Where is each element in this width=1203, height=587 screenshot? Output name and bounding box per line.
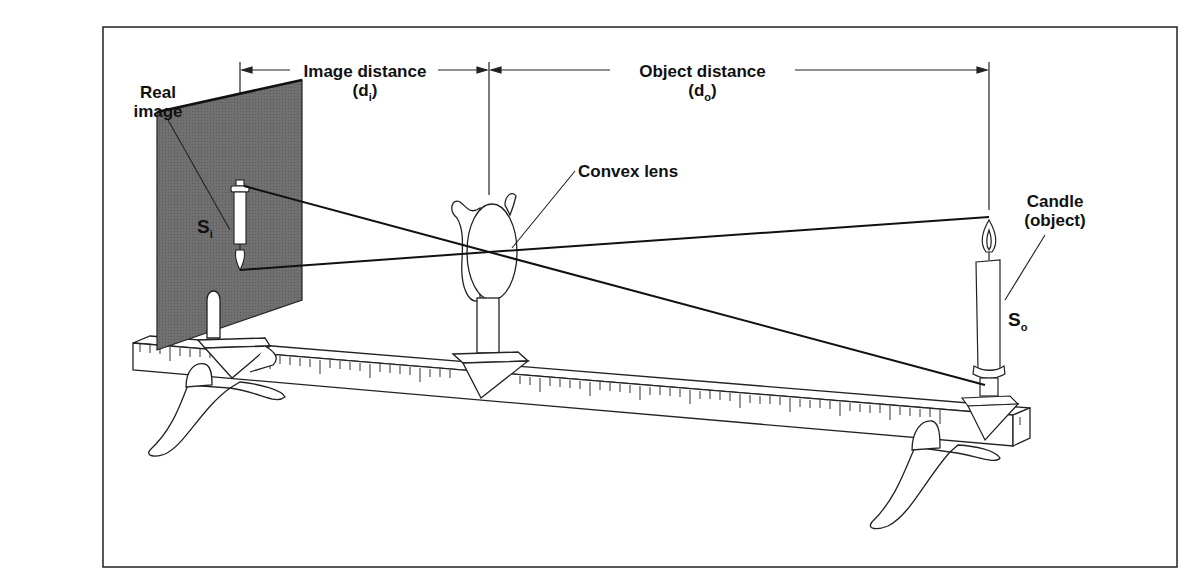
- label-candle-line2: (object): [1015, 211, 1095, 230]
- label-image-size: Si: [197, 217, 213, 239]
- label-image-distance-symbol: (di): [285, 81, 445, 102]
- label-object-distance: Object distance (do): [610, 62, 795, 102]
- label-object-distance-symbol: (do): [610, 81, 795, 102]
- label-real-image-line1: Real: [118, 83, 198, 102]
- label-image-distance-text: Image distance: [285, 62, 445, 81]
- symbol-subscript: o: [704, 91, 711, 103]
- symbol-subscript: i: [369, 91, 372, 103]
- label-candle-line1: Candle: [1015, 192, 1095, 211]
- label-object-size: So: [1008, 310, 1027, 332]
- symbol-close: ): [711, 81, 717, 100]
- label-real-image-line2: image: [118, 102, 198, 121]
- label-image-distance: Image distance (di): [285, 62, 445, 102]
- label-convex-lens: Convex lens: [578, 162, 678, 181]
- label-real-image: Real image: [118, 83, 198, 121]
- symbol-open: (d: [688, 81, 704, 100]
- label-candle-object: Candle (object): [1015, 192, 1095, 230]
- object-size-subscript: o: [1021, 321, 1028, 333]
- symbol-open: (d: [353, 81, 369, 100]
- symbol-close: ): [372, 81, 378, 100]
- label-object-distance-text: Object distance: [610, 62, 795, 81]
- image-size-subscript: i: [210, 228, 213, 240]
- image-size-base: S: [197, 216, 210, 237]
- object-size-base: S: [1008, 309, 1021, 330]
